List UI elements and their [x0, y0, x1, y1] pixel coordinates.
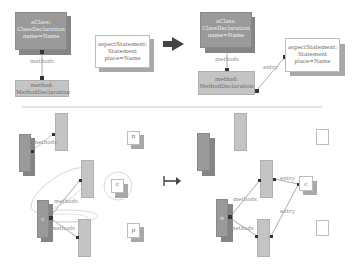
class-declaration-node[interactable]: aClass: ClassDeclaration name=Name — [15, 12, 67, 50]
class-box-line-3: name=Name — [16, 33, 66, 40]
transform-arrow-icon — [162, 36, 186, 52]
aspect-box-line-3: place=Name — [96, 55, 149, 62]
method-declaration-node[interactable]: method: MethodDeclaration — [15, 80, 69, 97]
edge-endpoint-dot — [76, 236, 79, 239]
edge-endpoint-dot — [258, 179, 261, 182]
aspect-box-line-1: aspectStatement: — [96, 41, 149, 48]
method-node[interactable] — [234, 113, 247, 151]
aspect-box-line-1: aspectStatement: — [286, 44, 339, 51]
method-box-line-1: method: — [199, 76, 254, 83]
method-declaration-node[interactable]: method: MethodDeclaration — [198, 71, 255, 95]
node-c[interactable]: c — [299, 176, 313, 191]
class-box-line-3: name=Name — [201, 32, 251, 39]
edge-label-methods: methods — [230, 225, 254, 231]
edge-label-entry: entry — [280, 175, 295, 181]
node-letter: n — [217, 214, 227, 221]
method-node[interactable] — [260, 160, 273, 198]
edge-label-methods: methods — [30, 58, 54, 64]
edge-endpoint-dot — [31, 150, 34, 153]
node-letter: c — [300, 180, 312, 187]
node-letter: c — [38, 215, 48, 222]
class-node[interactable]: n — [216, 199, 228, 237]
edge-label-methods: methods — [54, 198, 78, 204]
edge-endpoint-dot — [52, 133, 55, 136]
node-n[interactable]: n — [127, 131, 140, 145]
class-node[interactable]: c — [37, 200, 49, 238]
edge-label-methods: methods — [233, 196, 257, 202]
node-p[interactable]: p — [127, 223, 140, 238]
method-node[interactable] — [55, 113, 68, 151]
edge-endpoint-dot — [40, 50, 44, 54]
edge-endpoint-dot — [270, 235, 273, 238]
method-node[interactable] — [81, 160, 94, 198]
method-node[interactable] — [78, 219, 91, 257]
class-box-line-1: aClass: — [16, 19, 66, 26]
method-node[interactable] — [257, 219, 270, 257]
node-c[interactable]: c — [111, 179, 124, 193]
edge-label-methods: methods — [33, 139, 57, 145]
edge-label-entry: entry — [263, 64, 278, 70]
edge-endpoint-dot — [79, 179, 82, 182]
edge-endpoint-dot — [273, 178, 276, 181]
edge-label-methods: methods — [215, 56, 239, 62]
aspect-box-line-2: Statement — [286, 51, 339, 58]
class-box-line-1: aClass: — [201, 18, 251, 25]
edge-endpoint-dot — [255, 235, 258, 238]
class-box-line-2: ClassDeclaration — [16, 26, 66, 33]
aspect-box-line-2: Statement — [96, 48, 149, 55]
method-box-line-2: MethodDeclaration — [199, 83, 254, 90]
node-letter: c — [112, 180, 123, 187]
empty-node[interactable] — [316, 220, 329, 236]
class-node[interactable] — [197, 133, 210, 171]
class-declaration-node[interactable]: aClass: ClassDeclaration name=Name — [200, 12, 252, 48]
class-box-line-2: ClassDeclaration — [201, 25, 251, 32]
method-box-line-1: method: — [16, 82, 68, 89]
aspect-statement-node[interactable]: aspectStatement: Statement place=Name — [285, 38, 340, 72]
aspect-statement-node[interactable]: aspectStatement: Statement place=Name — [95, 35, 150, 68]
edge-label-methods: methods — [51, 225, 75, 231]
class-node[interactable] — [19, 134, 31, 172]
edge-endpoint-dot — [49, 216, 53, 220]
node-letter: n — [128, 132, 139, 139]
method-box-line-2: MethodDeclaration — [16, 89, 68, 96]
edge-label-entry: entry — [280, 208, 295, 214]
edge-endpoint-dot — [228, 215, 232, 219]
edge-endpoint-dot — [255, 89, 259, 93]
node-letter: p — [128, 226, 139, 233]
aspect-box-line-3: place=Name — [286, 58, 339, 65]
empty-node[interactable] — [316, 129, 329, 145]
mapsto-arrow-icon — [162, 174, 182, 188]
